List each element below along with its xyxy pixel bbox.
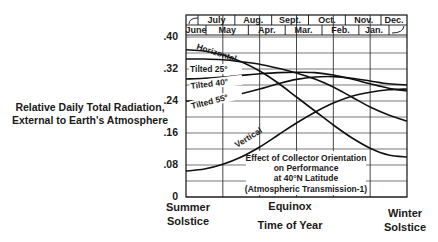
series-label: Tilted 55° bbox=[189, 89, 243, 112]
summer-label-line2: Solstice bbox=[158, 214, 218, 228]
series-label: Horizontal bbox=[195, 41, 238, 63]
month-label-top: Nov. bbox=[354, 15, 373, 25]
equinox-label: Equinox bbox=[250, 199, 330, 213]
summer-label-line1: Summer bbox=[158, 200, 218, 214]
series-label: Vertical bbox=[233, 125, 264, 150]
month-label-bottom: Apr. bbox=[258, 25, 276, 35]
svg-text:Tilted 55°: Tilted 55° bbox=[190, 92, 230, 111]
month-label-top: Oct. bbox=[318, 15, 336, 25]
winter-label-line1: Winter bbox=[375, 206, 435, 220]
series-label: Tilted 40° bbox=[189, 75, 243, 91]
chart-note-line: (Atmospheric Transmission-1) bbox=[245, 184, 368, 194]
chart-note-line: at 40°N Latitude bbox=[274, 173, 339, 183]
month-label-bottom: Feb. bbox=[331, 25, 350, 35]
turnaround-arrow-icon bbox=[189, 18, 198, 24]
month-label-bottom: Jan. bbox=[365, 25, 383, 35]
month-label-bottom: June bbox=[185, 25, 206, 35]
month-label-bottom: May bbox=[218, 25, 236, 35]
month-label-top: Dec. bbox=[384, 15, 403, 25]
month-label-top: Sept. bbox=[279, 15, 301, 25]
time-of-year-label: Time of Year bbox=[250, 218, 330, 232]
turnaround-arrow-icon bbox=[392, 26, 404, 33]
svg-text:Horizontal: Horizontal bbox=[195, 41, 238, 63]
month-label-bottom: Mar. bbox=[295, 25, 313, 35]
chart-note-line: Effect of Collector Orientation bbox=[246, 153, 367, 163]
svg-text:Tilted 25°: Tilted 25° bbox=[190, 64, 228, 74]
winter-solstice-label: Winter Solstice bbox=[375, 206, 435, 234]
chart-plot: JulyAug.Sept.Oct.Nov.Dec.JuneMayApr.Mar.… bbox=[0, 0, 438, 242]
winter-label-line2: Solstice bbox=[375, 220, 435, 234]
svg-text:Vertical: Vertical bbox=[233, 125, 264, 150]
series-label: Tilted 25° bbox=[189, 64, 242, 74]
month-label-top: Aug. bbox=[243, 15, 263, 25]
summer-solstice-label: Summer Solstice bbox=[158, 200, 218, 228]
chart-note-line: on Performance bbox=[274, 163, 339, 173]
month-label-top: July bbox=[207, 15, 225, 25]
